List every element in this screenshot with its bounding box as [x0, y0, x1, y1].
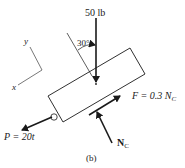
x-axis-label: x [12, 82, 16, 92]
figure-caption: (b) [86, 153, 97, 163]
coordinate-axes [18, 47, 42, 85]
angle-label: 30° [77, 38, 90, 48]
pull-force-label: P = 20t [4, 132, 34, 142]
free-body-diagram: 50 lb 30° y x F = 0.3 NC P = 20t NC (b) [0, 0, 185, 168]
y-axis-label: y [24, 36, 28, 46]
friction-force-arrow [89, 96, 120, 115]
normal-force-arrow [97, 112, 112, 143]
normal-force-label: NC [117, 138, 129, 151]
diagram-graphics [0, 0, 185, 168]
weight-label: 50 lb [85, 8, 105, 18]
friction-label: F = 0.3 NC [132, 91, 176, 104]
pull-force-arrow [22, 117, 52, 130]
